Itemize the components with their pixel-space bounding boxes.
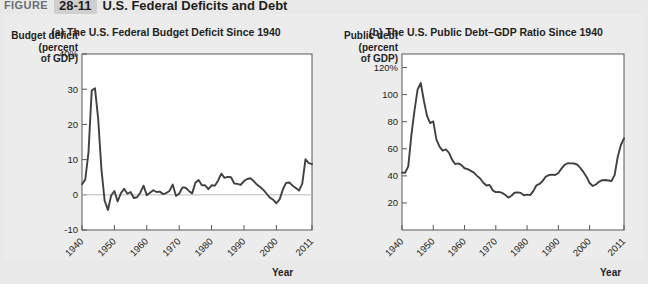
x-tick-label: 1980 [192,236,215,259]
figure-label: Figure [4,0,48,11]
y-tick-label: 20 [67,119,78,130]
y-tick-label: -10 [64,224,78,235]
x-tick-label: 1940 [383,236,406,259]
figure-header: Figure 28-11 U.S. Federal Deficits and D… [0,0,287,14]
panel-a-x-axis-title: Year [272,267,293,278]
x-tick-label: 2000 [570,236,593,259]
plot-area [82,54,312,230]
y-tick-label: 30 [67,84,78,95]
y-tick-label: 20 [387,197,398,208]
x-tick-label: 1970 [160,236,183,259]
x-tick-label: 1980 [508,236,531,259]
figure-title: U.S. Federal Deficits and Debt [103,0,288,13]
x-tick-label: 1950 [95,236,118,259]
figure-number: 28-11 [54,0,97,14]
x-tick-label: 1990 [225,236,248,259]
figure-body: (a) The U.S. Federal Budget Deficit Sinc… [4,14,644,260]
y-tick-label: 60 [387,143,398,154]
plot-area [402,54,624,230]
panel-a-y-axis-title: Budget deficit (percent of GDP) [6,30,78,65]
y-tick-label: 80 [387,116,398,127]
y-tick-label: 40 [387,170,398,181]
y-tick-label: 10 [67,154,78,165]
x-tick-label: 2000 [257,236,280,259]
y-tick-label: 0 [73,189,78,200]
x-tick-label: 1990 [539,236,562,259]
panel-b-x-axis-title: Year [600,267,621,278]
x-tick-label: 2011 [293,236,315,258]
x-tick-label: 2011 [605,236,627,258]
x-tick-label: 1970 [476,236,499,259]
x-tick-label: 1960 [445,236,468,259]
y-tick-label: 100 [382,89,398,100]
panel-b-y-axis-title: Public debt (percent of GDP) [326,30,398,65]
x-tick-label: 1940 [63,236,86,259]
x-tick-label: 1950 [414,236,437,259]
x-tick-label: 1960 [127,236,150,259]
figure-container: Figure 28-11 U.S. Federal Deficits and D… [0,0,648,284]
